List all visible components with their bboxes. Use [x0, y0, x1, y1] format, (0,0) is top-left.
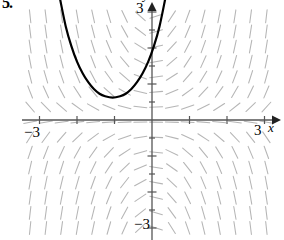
slope-field-plot	[0, 0, 284, 240]
solution-curve	[60, 0, 165, 98]
x-axis-name-label: x	[268, 120, 274, 136]
problem-number: 5.	[2, 0, 12, 12]
y-tick-label-neg3: −3	[134, 216, 150, 233]
figure-container: 5. y 3 −3 −3 3 x	[0, 0, 284, 240]
x-tick-label-3: 3	[254, 122, 262, 139]
slope-field-marks	[24, 10, 273, 235]
y-axis-name-label: y	[143, 0, 149, 3]
y-tick-label-3: 3	[136, 0, 144, 17]
x-tick-label-neg3: −3	[24, 124, 40, 141]
